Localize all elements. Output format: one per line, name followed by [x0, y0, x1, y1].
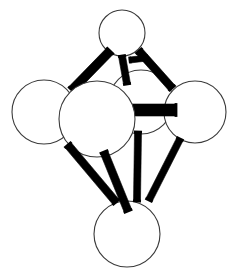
rear-center-to-right-bond-rod [129, 104, 176, 116]
rear-center-to-bottom-bond-rod [134, 132, 142, 201]
rear-center-to-bottom-bond-cap-end [133, 200, 141, 203]
rear-center-to-bottom-bond-cap-start [134, 131, 142, 134]
molecular-model-canvas [0, 0, 239, 276]
rear-center-to-right-bond-cap-end [175, 103, 178, 117]
rear-center-to-bottom-bond [133, 131, 142, 203]
molecule-diagram [0, 0, 239, 276]
